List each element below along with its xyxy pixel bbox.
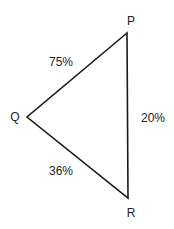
- triangle-diagram: P Q R 75% 20% 36%: [0, 0, 174, 229]
- edge-label-pr: 20%: [141, 111, 165, 125]
- edge-label-qr: 36%: [49, 164, 73, 178]
- vertex-label-r: R: [127, 206, 136, 220]
- triangle-pqr: [27, 33, 128, 198]
- edge-label-qp: 75%: [49, 55, 73, 69]
- vertex-label-q: Q: [10, 110, 19, 124]
- vertex-label-p: P: [127, 14, 135, 28]
